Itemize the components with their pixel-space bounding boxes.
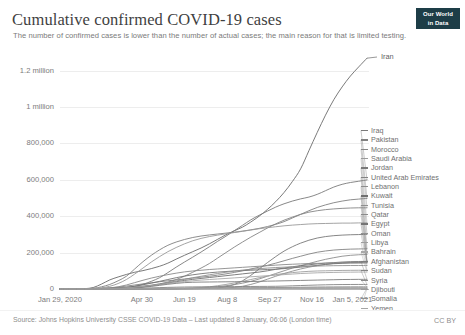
- legend-item-label: Saudi Arabia: [371, 154, 412, 163]
- legend-item-label: Oman: [371, 229, 391, 238]
- legend-connector: [367, 57, 377, 58]
- series-line[interactable]: [60, 234, 367, 289]
- legend-color-swatch: [361, 167, 368, 168]
- legend-color-swatch: [361, 223, 368, 224]
- series-line[interactable]: [60, 254, 367, 289]
- legend-color-swatch: [361, 186, 368, 187]
- chart-legend: IraqPakistanMoroccoSaudi ArabiaJordanUni…: [371, 126, 465, 313]
- our-world-in-data-logo[interactable]: Our World in Data: [416, 8, 460, 29]
- legend-item-label: Yemen: [371, 304, 393, 313]
- legend-item[interactable]: Jordan: [371, 163, 465, 172]
- legend-item[interactable]: Egypt: [371, 219, 465, 228]
- legend-item[interactable]: Yemen: [371, 304, 465, 313]
- legend-color-swatch: [361, 139, 368, 140]
- legend-item-label: Iraq: [371, 126, 383, 135]
- legend-color-swatch: [361, 233, 368, 234]
- legend-color-swatch: [361, 308, 368, 309]
- legend-item-label: United Arab Emirates: [371, 173, 439, 182]
- legend-color-swatch: [361, 195, 368, 196]
- legend-color-swatch: [361, 289, 368, 290]
- source-note: Source: Johns Hopkins University CSSE CO…: [13, 316, 332, 323]
- legend-item-label: Syria: [371, 276, 387, 285]
- legend-item-label: Libya: [371, 238, 388, 247]
- legend-item[interactable]: Sudan: [371, 266, 465, 275]
- logo-line-2: in Data: [416, 19, 460, 28]
- legend-item-label: Egypt: [371, 219, 389, 228]
- legend-color-swatch: [361, 280, 368, 281]
- legend-item[interactable]: Tunisia: [371, 201, 465, 210]
- legend-color-swatch: [361, 149, 368, 150]
- legend-item-label: Djibouti: [371, 285, 395, 294]
- legend-item[interactable]: Qatar: [371, 210, 465, 219]
- legend-item-label: Sudan: [371, 266, 392, 275]
- footer-divider: [0, 310, 465, 311]
- legend-item[interactable]: Somalia: [371, 294, 465, 303]
- legend-item-label: Kuwait: [371, 191, 393, 200]
- legend-color-swatch: [361, 158, 368, 159]
- legend-color-swatch: [361, 298, 368, 299]
- legend-color-swatch: [361, 177, 368, 178]
- page-subtitle: The number of confirmed cases is lower t…: [13, 31, 406, 40]
- page-title: Cumulative confirmed COVID-19 cases: [12, 10, 282, 30]
- legend-item-label: Tunisia: [371, 201, 394, 210]
- legend-item[interactable]: Oman: [371, 229, 465, 238]
- legend-item[interactable]: Saudi Arabia: [371, 154, 465, 163]
- legend-item-label: Qatar: [371, 210, 389, 219]
- legend-item[interactable]: Morocco: [371, 145, 465, 154]
- logo-line-1: Our World: [416, 10, 460, 19]
- legend-item[interactable]: Libya: [371, 238, 465, 247]
- legend-color-swatch: [361, 261, 368, 262]
- license-label[interactable]: CC BY: [434, 316, 456, 325]
- legend-item-label: Bahrain: [371, 247, 396, 256]
- legend-item[interactable]: Pakistan: [371, 135, 465, 144]
- legend-item-label: Lebanon: [371, 182, 399, 191]
- legend-item-label: Afghanistan: [371, 257, 409, 266]
- legend-item[interactable]: Kuwait: [371, 191, 465, 200]
- series-label-iran[interactable]: Iran: [381, 52, 394, 61]
- legend-color-swatch: [361, 242, 368, 243]
- legend-color-swatch: [361, 130, 368, 131]
- legend-item[interactable]: Syria: [371, 276, 465, 285]
- legend-item-label: Pakistan: [371, 135, 399, 144]
- legend-item[interactable]: Iraq: [371, 126, 465, 135]
- legend-item-label: Jordan: [371, 163, 393, 172]
- legend-item[interactable]: Lebanon: [371, 182, 465, 191]
- legend-color-swatch: [361, 214, 368, 215]
- legend-item[interactable]: Bahrain: [371, 247, 465, 256]
- legend-item[interactable]: Afghanistan: [371, 257, 465, 266]
- legend-item[interactable]: United Arab Emirates: [371, 173, 465, 182]
- legend-connector: [361, 280, 367, 287]
- legend-color-swatch: [361, 251, 368, 252]
- legend-color-swatch: [361, 270, 368, 271]
- chart-page: Cumulative confirmed COVID-19 cases The …: [0, 0, 465, 335]
- legend-item-label: Morocco: [371, 145, 399, 154]
- legend-item-label: Somalia: [371, 294, 397, 303]
- legend-color-swatch: [361, 205, 368, 206]
- legend-item[interactable]: Djibouti: [371, 285, 465, 294]
- series-line[interactable]: [60, 58, 367, 289]
